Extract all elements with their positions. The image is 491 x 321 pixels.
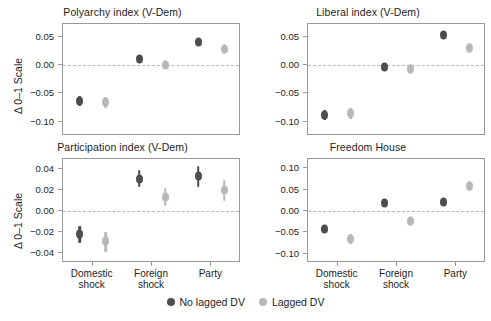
estimate-point-liberal: [469, 24, 470, 136]
legend-label-lagged-dv: Lagged DV: [272, 296, 325, 308]
estimate-point-participation: [139, 159, 140, 263]
y-tick-label: 0.10: [265, 162, 299, 173]
point-marker: [162, 193, 169, 202]
estimate-point-participation: [105, 159, 106, 263]
point-marker: [321, 225, 328, 234]
y-tick-label: −0.05: [265, 87, 299, 98]
y-tick-mark: [58, 168, 62, 169]
point-marker: [221, 45, 228, 54]
legend-label-no-lagged-dv: No lagged DV: [180, 296, 245, 308]
point-marker: [440, 197, 447, 206]
estimate-point-liberal: [350, 24, 351, 136]
estimate-point-participation: [79, 159, 80, 263]
panel-freedom-house: Freedom House 0.100.050.00−0.05−0.10Dome…: [245, 141, 491, 286]
zero-reference-line: [63, 211, 239, 212]
legend-item-lagged-dv: Lagged DV: [259, 296, 325, 308]
y-tick-label: 0.00: [20, 58, 54, 69]
point-marker: [102, 98, 109, 107]
point-marker: [347, 109, 354, 118]
x-tick-mark: [210, 262, 211, 266]
y-tick-label: 0.00: [265, 58, 299, 69]
y-axis-title-participation: Δ 0–1 Scale: [12, 193, 24, 249]
point-marker: [195, 171, 202, 180]
y-tick-label: 0.00: [265, 205, 299, 216]
estimate-point-participation: [165, 159, 166, 263]
y-tick-mark: [303, 167, 307, 168]
figure-root: Polyarchy index (V-Dem) Δ 0–1 Scale 0.05…: [0, 0, 491, 321]
y-tick-label: 0.04: [20, 163, 54, 174]
point-marker: [440, 31, 447, 40]
legend: No lagged DV Lagged DV: [0, 296, 491, 308]
estimate-point-freedom-house: [443, 159, 444, 263]
estimate-point-participation: [224, 159, 225, 263]
estimate-point-polyarchy: [105, 24, 106, 136]
y-tick-label: 0.00: [20, 205, 54, 216]
y-tick-label: 0.05: [20, 30, 54, 41]
y-tick-mark: [58, 231, 62, 232]
x-tick-mark: [455, 262, 456, 266]
point-marker: [321, 110, 328, 119]
plot-area-polyarchy: [62, 23, 240, 135]
point-marker: [381, 198, 388, 207]
y-tick-mark: [303, 64, 307, 65]
y-tick-label: −0.05: [265, 226, 299, 237]
estimate-point-polyarchy: [139, 24, 140, 136]
y-tick-mark: [58, 210, 62, 211]
y-tick-label: −0.10: [265, 247, 299, 258]
y-tick-mark: [58, 121, 62, 122]
zero-reference-line: [308, 65, 484, 66]
x-tick-mark: [337, 262, 338, 266]
y-tick-label: −0.05: [20, 87, 54, 98]
estimate-point-freedom-house: [350, 159, 351, 263]
point-marker: [347, 235, 354, 244]
x-tick-label: Party: [199, 268, 222, 279]
panel-polyarchy: Polyarchy index (V-Dem) Δ 0–1 Scale 0.05…: [0, 6, 245, 146]
zero-reference-line: [63, 65, 239, 66]
y-tick-mark: [58, 92, 62, 93]
y-tick-mark: [58, 189, 62, 190]
panel-title-freedom-house: Freedom House: [245, 141, 491, 153]
point-marker: [221, 186, 228, 195]
y-tick-label: 0.05: [265, 30, 299, 41]
point-marker: [136, 174, 143, 183]
estimate-point-polyarchy: [165, 24, 166, 136]
y-tick-mark: [303, 253, 307, 254]
estimate-point-freedom-house: [469, 159, 470, 263]
point-marker: [76, 229, 83, 238]
plot-area-freedom-house: [307, 158, 485, 262]
plot-area-participation: [62, 158, 240, 262]
legend-swatch-lagged-dv: [259, 298, 267, 306]
point-marker: [102, 237, 109, 246]
x-tick-mark: [396, 262, 397, 266]
x-tick-mark: [151, 262, 152, 266]
y-tick-mark: [58, 252, 62, 253]
panel-title-polyarchy: Polyarchy index (V-Dem): [0, 6, 245, 18]
x-tick-label: Domesticshock: [71, 268, 113, 290]
point-marker: [407, 217, 414, 226]
estimate-point-liberal: [384, 24, 385, 136]
x-tick-label: Party: [444, 268, 467, 279]
estimate-point-freedom-house: [410, 159, 411, 263]
estimate-point-liberal: [324, 24, 325, 136]
y-tick-mark: [303, 210, 307, 211]
point-marker: [407, 64, 414, 73]
y-tick-label: 0.05: [265, 183, 299, 194]
legend-item-no-lagged-dv: No lagged DV: [167, 296, 245, 308]
zero-reference-line: [308, 211, 484, 212]
panel-participation: Participation index (V-Dem) Δ 0–1 Scale …: [0, 141, 245, 286]
point-marker: [136, 54, 143, 63]
estimate-point-polyarchy: [79, 24, 80, 136]
y-tick-mark: [58, 36, 62, 37]
point-marker: [162, 60, 169, 69]
y-tick-mark: [303, 92, 307, 93]
point-marker: [195, 38, 202, 47]
x-tick-label: Foreignshock: [134, 268, 168, 290]
x-tick-label: Domesticshock: [316, 268, 358, 290]
estimate-point-polyarchy: [198, 24, 199, 136]
panel-title-liberal: Liberal index (V-Dem): [245, 6, 491, 18]
point-marker: [466, 181, 473, 190]
panel-liberal: Liberal index (V-Dem) 0.050.00−0.05−0.10: [245, 6, 491, 146]
point-marker: [466, 44, 473, 53]
estimate-point-freedom-house: [384, 159, 385, 263]
y-tick-label: −0.10: [265, 115, 299, 126]
